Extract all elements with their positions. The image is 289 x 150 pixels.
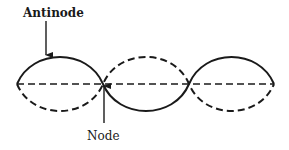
antinode-label: Antinode	[22, 6, 84, 20]
standing-wave-diagram: Antinode Node	[0, 0, 289, 150]
node-label: Node	[87, 129, 120, 143]
